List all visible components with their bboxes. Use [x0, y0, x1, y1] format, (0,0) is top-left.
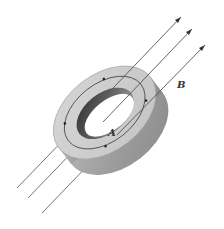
label-a: A [107, 127, 116, 138]
arrowheads [175, 17, 205, 51]
ring [36, 47, 187, 194]
ring-in-field-diagram: B A [0, 0, 224, 229]
diagram-canvas: B A [0, 0, 224, 229]
label-b: B [176, 79, 185, 90]
